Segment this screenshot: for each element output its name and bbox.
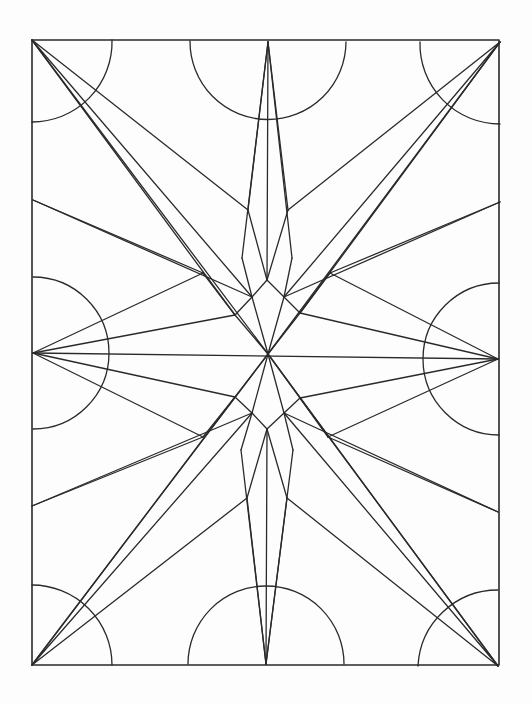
star-line (268, 354, 300, 398)
star-line (33, 353, 235, 397)
star-line (32, 40, 235, 315)
star-line (203, 273, 235, 315)
star-line (267, 280, 284, 297)
star-line (284, 398, 300, 413)
star-line (242, 42, 268, 258)
star-line (33, 315, 235, 353)
star-line (235, 297, 252, 315)
corner-arc-bottom-left (32, 585, 112, 665)
star-line (300, 313, 498, 359)
star-line (284, 42, 500, 297)
star-line (252, 280, 267, 297)
star-line (267, 210, 288, 280)
star-line (267, 42, 268, 280)
star-line (268, 354, 284, 413)
star-line (268, 42, 292, 258)
corner-arc-top-right (420, 42, 500, 124)
star-line (330, 273, 498, 359)
star-line (252, 413, 267, 429)
star-line (266, 429, 267, 664)
corner-arc-top-left (32, 40, 112, 122)
star-line (247, 429, 267, 498)
star-line (267, 429, 287, 498)
star-line (235, 354, 268, 397)
star-line (268, 297, 284, 354)
star-line (268, 313, 300, 354)
star-line (33, 200, 252, 297)
star-line (284, 413, 498, 666)
star-line (32, 413, 252, 506)
star-line (300, 359, 498, 398)
star-line (33, 273, 203, 353)
star-line (241, 450, 266, 664)
star-line (284, 202, 500, 297)
star-line (328, 359, 498, 437)
star-line (267, 413, 284, 429)
star-line (266, 450, 293, 664)
corner-arc-bottom-right (418, 590, 498, 666)
star-line (32, 40, 252, 297)
star-line (235, 397, 252, 413)
star-line (284, 258, 292, 297)
star-line (252, 354, 268, 413)
star-line (248, 210, 267, 280)
star-drawing (0, 0, 532, 704)
star-line (32, 413, 252, 665)
star-line (284, 297, 300, 313)
star-lines (32, 40, 500, 666)
